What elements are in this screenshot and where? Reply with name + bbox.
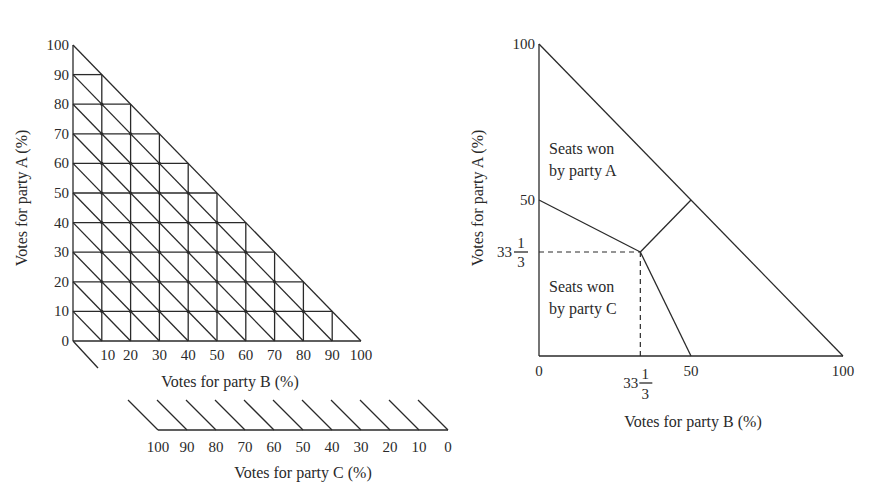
b-tick-label-denominator: 3 [642, 386, 650, 402]
b-tick-label-numerator: 1 [642, 366, 650, 382]
b-tick-label: 50 [684, 363, 699, 379]
a-tick-label: 100 [513, 36, 536, 52]
region-a-label-line1: Seats won [549, 140, 614, 157]
a-tick-label-denominator: 3 [517, 254, 525, 270]
b-tick-label: 100 [832, 363, 855, 379]
b-tick-label-whole: 33 [623, 375, 638, 391]
a-tick-label-numerator: 1 [517, 235, 525, 251]
region-boundary-line [640, 252, 691, 356]
right-region-chart: 1005033130331350100Votes for party B (%)… [0, 0, 878, 496]
a-tick-label-whole: 33 [497, 244, 512, 260]
region-boundary-line [539, 200, 640, 252]
region-a-label-line2: by party A [549, 162, 617, 180]
region-c-label-line1: Seats won [549, 278, 614, 295]
b-tick-label: 0 [535, 363, 543, 379]
b-axis-label: Votes for party B (%) [624, 413, 761, 431]
a-tick-label: 50 [520, 192, 535, 208]
a-axis-label: Votes for party A (%) [469, 130, 487, 267]
diagram-canvas: 0102030405060708090100102030405060708090… [0, 0, 878, 496]
region-boundary-line [640, 200, 691, 252]
region-c-label-line2: by party C [549, 300, 617, 318]
